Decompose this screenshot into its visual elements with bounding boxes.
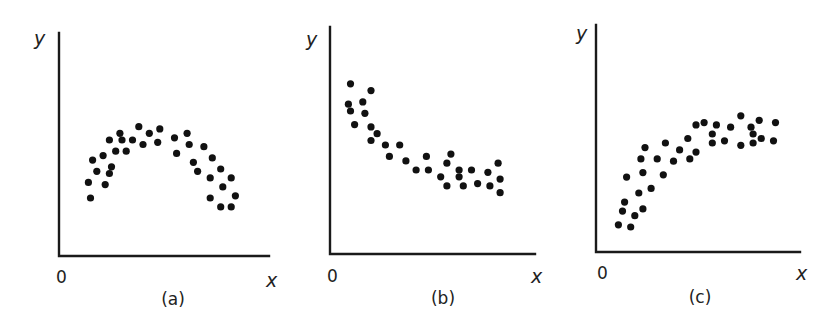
panel-c: y 0 x (c): [575, 22, 808, 307]
data-point: [207, 174, 214, 181]
data-point: [758, 135, 765, 142]
data-point: [200, 143, 207, 150]
data-point: [623, 174, 630, 181]
origin-label: 0: [327, 266, 338, 286]
data-point: [374, 130, 381, 137]
data-point: [460, 182, 467, 189]
data-point: [692, 121, 699, 128]
data-point: [106, 170, 113, 177]
data-point: [486, 182, 493, 189]
x-axis-label: x: [795, 262, 808, 284]
data-point: [186, 141, 193, 148]
data-point: [396, 141, 403, 148]
data-point: [635, 189, 642, 196]
origin-label: 0: [56, 267, 67, 287]
panel-a: y 0 x (a): [33, 27, 278, 309]
data-point: [456, 166, 463, 173]
x-axis-label: x: [265, 269, 278, 291]
data-point: [684, 135, 691, 142]
data-point: [135, 123, 142, 130]
data-point: [100, 152, 107, 159]
data-point: [660, 171, 667, 178]
data-point: [123, 148, 130, 155]
data-point: [425, 166, 432, 173]
data-point: [737, 112, 744, 119]
data-point: [102, 181, 109, 188]
data-point: [756, 117, 763, 124]
data-point: [382, 141, 389, 148]
data-point: [361, 110, 368, 117]
data-point: [345, 101, 352, 108]
data-point: [709, 130, 716, 137]
data-point: [367, 137, 374, 144]
data-point: [85, 179, 92, 186]
data-point: [648, 185, 655, 192]
data-point: [89, 157, 96, 164]
data-point: [87, 194, 94, 201]
data-point: [116, 130, 123, 137]
data-point: [347, 107, 354, 114]
data-point: [156, 125, 163, 132]
data-point: [171, 134, 178, 141]
data-point: [497, 176, 504, 183]
data-point: [173, 150, 180, 157]
data-point: [713, 121, 720, 128]
origin-label: 0: [597, 263, 608, 283]
y-axis-label: y: [575, 22, 588, 44]
data-point: [402, 157, 409, 164]
data-point: [701, 119, 708, 126]
data-point: [615, 221, 622, 228]
data-point: [347, 80, 354, 87]
data-point: [217, 165, 224, 172]
panel-caption: (a): [161, 289, 185, 309]
data-point: [670, 158, 677, 165]
data-point: [359, 98, 366, 105]
data-point: [194, 168, 201, 175]
data-point: [627, 223, 634, 230]
data-point: [737, 142, 744, 149]
y-axis-label: y: [305, 28, 318, 50]
data-point: [106, 136, 113, 143]
data-point: [750, 139, 757, 146]
data-point: [619, 208, 626, 215]
data-point: [139, 141, 146, 148]
data-point: [217, 203, 224, 210]
data-point: [207, 194, 214, 201]
data-point: [209, 154, 216, 161]
data-point: [118, 136, 125, 143]
data-point: [232, 192, 239, 199]
data-point: [447, 151, 454, 158]
data-point: [662, 139, 669, 146]
data-point: [497, 189, 504, 196]
data-point: [747, 124, 754, 131]
data-point: [456, 173, 463, 180]
data-point: [129, 136, 136, 143]
data-point: [484, 169, 491, 176]
data-point: [367, 87, 374, 94]
data-point: [154, 139, 161, 146]
data-point: [443, 182, 450, 189]
scatter-points: [85, 123, 239, 210]
data-point: [750, 130, 757, 137]
data-point: [437, 173, 444, 180]
data-point: [367, 123, 374, 130]
data-point: [184, 130, 191, 137]
data-point: [641, 144, 648, 151]
axes-lines: [596, 25, 800, 252]
data-point: [386, 153, 393, 160]
data-point: [228, 203, 235, 210]
data-point: [654, 155, 661, 162]
data-point: [772, 119, 779, 126]
panel-caption: (b): [431, 288, 455, 308]
data-point: [219, 183, 226, 190]
scatter-figure: y 0 x (a) y 0 x (b) y 0 x (c): [0, 0, 834, 334]
data-point: [443, 160, 450, 167]
data-point: [631, 212, 638, 219]
data-point: [721, 137, 728, 144]
data-point: [112, 148, 119, 155]
data-point: [146, 130, 153, 137]
data-point: [474, 180, 481, 187]
data-point: [686, 155, 693, 162]
data-point: [676, 146, 683, 153]
scatter-points: [615, 112, 779, 230]
